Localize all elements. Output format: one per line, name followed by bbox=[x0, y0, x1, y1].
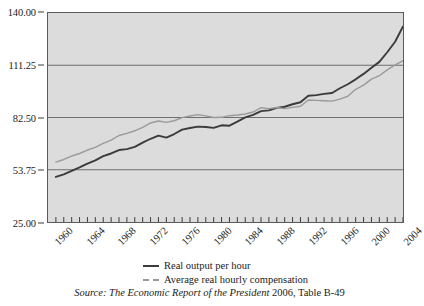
source-note-roman: 2006, Table B-49 bbox=[269, 287, 344, 298]
y-axis-tick-mark bbox=[38, 12, 44, 13]
x-axis-tick-label: 1976 bbox=[179, 225, 201, 247]
y-axis-tick-label: 53.75 bbox=[13, 165, 36, 176]
y-axis: 140.00111.2582.5053.7525.00 bbox=[0, 0, 44, 236]
legend-swatch-dashed-line-icon bbox=[143, 275, 159, 285]
legend-swatch-solid-line-icon bbox=[143, 261, 159, 271]
y-axis-tick-mark bbox=[38, 64, 44, 65]
y-axis-tick-label: 140.00 bbox=[8, 7, 36, 18]
y-axis-tick-mark bbox=[38, 170, 44, 171]
x-axis-tick-label: 1984 bbox=[243, 225, 265, 247]
x-axis-tick-label: 1964 bbox=[84, 225, 106, 247]
source-note-italic: Source: The Economic Report of the Presi… bbox=[74, 287, 269, 298]
legend-label: Real output per hour bbox=[164, 260, 251, 272]
legend-item-real-output-per-hour: Real output per hour bbox=[143, 259, 403, 272]
source-note: Source: The Economic Report of the Presi… bbox=[0, 287, 419, 298]
y-axis-tick-label: 25.00 bbox=[13, 218, 36, 229]
plot-area bbox=[47, 12, 404, 223]
x-axis-tick-label: 1988 bbox=[274, 225, 296, 247]
series-line bbox=[56, 26, 403, 176]
y-axis-tick-label: 82.50 bbox=[13, 112, 36, 123]
y-axis-tick-mark bbox=[38, 117, 44, 118]
legend-item-average-real-hourly-compensation: Average real hourly compensation bbox=[143, 273, 403, 286]
legend-label: Average real hourly compensation bbox=[164, 274, 308, 286]
x-axis-tick-label: 1996 bbox=[338, 225, 360, 247]
x-axis-tick-label: 1992 bbox=[306, 225, 328, 247]
y-axis-tick-mark bbox=[38, 223, 44, 224]
x-axis-tick-label: 1960 bbox=[52, 225, 74, 247]
x-axis-tick-label: 1968 bbox=[116, 225, 138, 247]
chart-legend: Real output per hour Average real hourly… bbox=[143, 259, 403, 287]
series-line bbox=[56, 61, 403, 163]
x-axis-tick-label: 1980 bbox=[211, 225, 233, 247]
x-axis-tick-label: 2000 bbox=[370, 225, 392, 247]
x-axis-tick-label: 1972 bbox=[148, 225, 170, 247]
x-axis-tick-label: 2004 bbox=[401, 225, 423, 247]
y-axis-tick-label: 111.25 bbox=[9, 59, 37, 70]
plot-svg bbox=[48, 13, 403, 222]
